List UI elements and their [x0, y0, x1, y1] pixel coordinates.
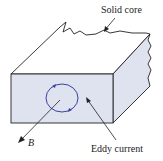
core-diagram [0, 0, 163, 161]
eddy-current-label: Eddy current [91, 143, 143, 154]
solid-core-label: Solid core [101, 4, 142, 15]
front-face [11, 74, 113, 123]
b-field-label: B [28, 137, 34, 148]
